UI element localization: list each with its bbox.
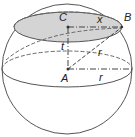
label-x: x	[97, 14, 103, 25]
label-B: B	[124, 12, 131, 23]
sphere-diagram	[0, 0, 135, 137]
label-r-horizontal: r	[99, 72, 103, 83]
label-t: t	[61, 41, 64, 52]
label-A: A	[61, 73, 68, 84]
label-r-slant: r	[98, 47, 102, 58]
label-C: C	[59, 12, 67, 23]
point-C	[67, 26, 70, 29]
point-B	[121, 26, 123, 28]
equator-back	[2, 51, 132, 69]
point-A	[67, 68, 70, 71]
